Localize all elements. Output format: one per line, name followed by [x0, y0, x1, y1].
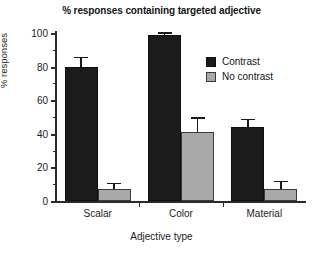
y-minor-tick-mark [53, 83, 56, 84]
y-axis-label: % responses [0, 33, 9, 88]
legend-label: No contrast [222, 71, 273, 82]
error-bar-cap [241, 119, 255, 121]
y-minor-tick-mark [53, 184, 56, 185]
x-tick-label-material: Material [247, 208, 283, 219]
x-tick-mark [223, 203, 224, 207]
y-tick-mark [51, 67, 56, 69]
y-tick-label: 100 [31, 28, 48, 39]
bar-color-contrast [148, 35, 181, 201]
y-tick-mark [51, 167, 56, 169]
legend-swatch-icon [206, 57, 216, 67]
error-bar-cap [107, 183, 121, 185]
y-minor-tick-mark [53, 50, 56, 51]
y-minor-tick-mark [53, 151, 56, 152]
y-tick-label: 40 [37, 128, 48, 139]
y-tick-label: 20 [37, 162, 48, 173]
bar-scalar-no-contrast [98, 189, 131, 201]
legend-label: Contrast [222, 56, 260, 67]
x-tick-label-color: Color [169, 208, 193, 219]
bar-color-no-contrast [181, 132, 214, 201]
legend-swatch-icon [206, 72, 216, 82]
error-bar-stem [80, 57, 82, 67]
error-bar-stem [197, 117, 199, 132]
y-tick-label: 80 [37, 61, 48, 72]
y-tick-mark [51, 100, 56, 102]
y-tick-label: 60 [37, 95, 48, 106]
y-tick-mark [51, 201, 56, 203]
y-minor-tick-mark [53, 117, 56, 118]
y-tick-mark [51, 33, 56, 35]
bar-material-contrast [231, 127, 264, 201]
x-tick-mark [139, 203, 140, 207]
x-tick-label-scalar: Scalar [83, 208, 111, 219]
chart-legend: ContrastNo contrast [206, 56, 273, 86]
y-tick-label: 0 [42, 196, 48, 207]
error-bar-cap [158, 32, 172, 34]
error-bar-cap [191, 117, 205, 119]
error-bar-cap [274, 181, 288, 183]
legend-item-contrast: Contrast [206, 56, 273, 67]
chart-title: % responses containing targeted adjectiv… [0, 5, 323, 16]
error-bar-cap [74, 57, 88, 59]
legend-item-no-contrast: No contrast [206, 71, 273, 82]
x-axis-label: Adjective type [0, 231, 323, 242]
chart-figure: % responses containing targeted adjectiv… [0, 0, 323, 257]
bar-scalar-contrast [65, 67, 98, 201]
bar-material-no-contrast [264, 189, 297, 201]
x-axis-spine [55, 201, 306, 203]
y-tick-mark [51, 134, 56, 136]
